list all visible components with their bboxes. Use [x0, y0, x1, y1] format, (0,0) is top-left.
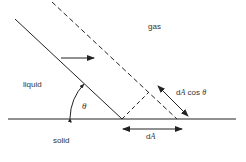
- dA-cos-word: cos: [185, 88, 202, 97]
- liquid-label: liquid: [23, 80, 42, 89]
- dA-cos-theta-symbol: θ: [202, 88, 206, 97]
- theta-label: θ: [82, 101, 86, 111]
- perpendicular-dashed-line: [122, 92, 149, 119]
- displaced-interface-dashed-line: [52, 2, 177, 119]
- solid-label: solid: [53, 136, 69, 145]
- gas-label: gas: [148, 22, 161, 31]
- dA-A: A: [150, 132, 155, 141]
- dA-cos-theta-label: dA cos θ: [176, 88, 206, 97]
- dA-label: dA: [146, 132, 155, 141]
- liquid-interface-line: [15, 19, 122, 119]
- contact-angle-diagram: gas liquid solid θ dA cos θ dA: [0, 0, 246, 162]
